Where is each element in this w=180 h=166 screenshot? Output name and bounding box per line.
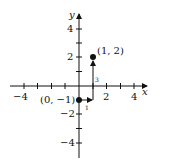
x-tick-label: 4 — [131, 91, 137, 102]
point-1-2 — [90, 54, 96, 60]
x-tick-label: −4 — [13, 91, 28, 102]
x-axis-label: x — [142, 86, 148, 97]
point-0-neg1 — [76, 97, 82, 103]
y-axis-label: y — [68, 9, 75, 20]
x-tick-label: 2 — [103, 91, 109, 102]
y-tick-label: −4 — [60, 137, 75, 148]
point-label: (1, 2) — [97, 45, 124, 56]
run-label: 1 — [85, 104, 89, 111]
y-tick-label: −2 — [60, 108, 75, 119]
rise-label: 3 — [95, 76, 99, 83]
coordinate-plane: x y −4 2 4 4 2 −2 −4 1 3 (0, −1) (1, 2) — [0, 0, 180, 166]
y-tick-label: 4 — [67, 23, 73, 34]
y-tick-label: 2 — [67, 51, 73, 62]
point-label: (0, −1) — [40, 94, 75, 105]
